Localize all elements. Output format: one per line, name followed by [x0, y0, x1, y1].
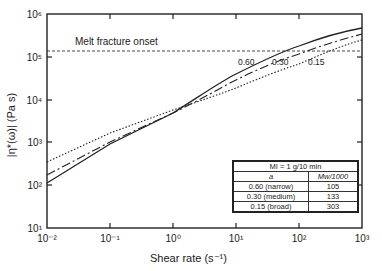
legend-row: 0.15 (broad) 303: [233, 202, 358, 213]
legend-table: MI = 1 g/10 min a Mw/1000 0.60 (narrow) …: [232, 160, 359, 213]
y-tick-label: 10⁶: [27, 9, 42, 20]
y-tick-label: 10³: [28, 137, 43, 148]
legend-header-mw: Mw/1000: [309, 172, 359, 182]
x-axis-label: Shear rate (s⁻¹): [150, 252, 227, 265]
x-tick-label: 10¹: [229, 233, 244, 244]
x-tick-label: 10⁰: [165, 233, 180, 244]
legend-row: 0.60 (narrow) 105: [233, 182, 358, 192]
y-tick-label: 10²: [28, 180, 43, 191]
curve-label-030: 0.30: [272, 57, 289, 67]
y-axis-label: |η*(ω)| (Pa s): [5, 93, 17, 157]
curve-label-015: 0.15: [308, 57, 325, 67]
curve-label-060: 0.60: [238, 57, 255, 67]
y-tick-label: 10⁴: [27, 95, 42, 106]
x-tick-label: 10²: [292, 233, 307, 244]
x-tick-label: 10⁻²: [37, 233, 57, 244]
legend-a: 0.15 (broad): [233, 202, 309, 213]
x-tick-label: 10³: [355, 233, 370, 244]
x-tick-labels: 10⁻² 10⁻¹ 10⁰ 10¹ 10² 10³: [37, 233, 370, 244]
melt-fracture-label: Melt fracture onset: [75, 36, 158, 47]
legend-mw: 133: [309, 192, 359, 202]
legend-a: 0.60 (narrow): [233, 182, 309, 192]
legend-a: 0.30 (medium): [233, 192, 309, 202]
legend-title: MI = 1 g/10 min: [233, 161, 358, 172]
curve-labels: 0.60 0.30 0.15: [238, 57, 325, 67]
y-tick-labels: 10¹ 10² 10³ 10⁴ 10⁵ 10⁶: [27, 9, 43, 234]
y-axis-label-wrap: |η*(ω)| (Pa s): [0, 70, 22, 180]
y-tick-label: 10⁵: [27, 52, 42, 63]
chart-canvas: 10⁻² 10⁻¹ 10⁰ 10¹ 10² 10³ 10¹ 10² 10³ 10…: [0, 0, 382, 271]
legend-row: 0.30 (medium) 133: [233, 192, 358, 202]
x-tick-label: 10⁻¹: [100, 233, 120, 244]
legend-header-a: a: [233, 172, 309, 182]
y-tick-label: 10¹: [28, 223, 43, 234]
legend-mw: 105: [309, 182, 359, 192]
legend-mw: 303: [309, 202, 359, 213]
